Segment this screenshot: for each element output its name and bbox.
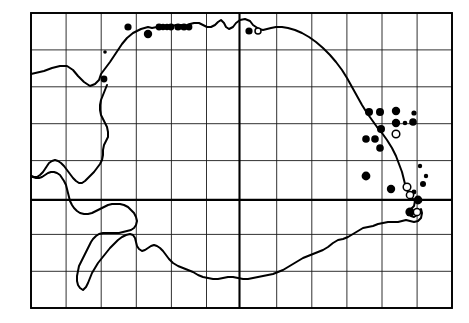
open-circle-record <box>406 191 413 198</box>
filled-circle-record <box>409 118 417 126</box>
filled-circle-record <box>387 185 395 193</box>
filled-circle-record <box>362 172 371 181</box>
open-circle-record <box>255 28 261 34</box>
filled-circle-record <box>376 108 384 116</box>
filled-circle-record <box>371 135 379 143</box>
coastline-inland-boundary <box>31 85 108 183</box>
filled-circle-record <box>411 110 416 115</box>
open-circle-record <box>403 183 411 191</box>
graticule-minor-lines <box>31 13 452 308</box>
coastline-outline <box>31 19 422 290</box>
map-canvas <box>0 0 469 323</box>
filled-circle-record <box>362 135 370 143</box>
filled-circle-record <box>392 119 400 127</box>
filled-circle-record <box>186 24 193 31</box>
filled-circle-record <box>144 30 152 38</box>
filled-circle-record <box>245 27 252 34</box>
filled-circle-record <box>103 50 107 54</box>
filled-circle-record <box>101 76 108 83</box>
filled-circle-record <box>168 24 175 31</box>
filled-circle-record <box>124 23 131 30</box>
filled-circle-record <box>418 164 422 168</box>
filled-circle-record <box>403 121 408 126</box>
filled-circle-record <box>376 144 384 152</box>
filled-circle-record <box>414 196 423 205</box>
filled-record-points <box>101 23 429 216</box>
filled-circle-record <box>377 125 385 133</box>
open-circle-record <box>413 208 420 215</box>
open-circle-record <box>392 130 400 138</box>
filled-circle-record <box>365 108 373 116</box>
filled-circle-record <box>424 174 428 178</box>
distribution-map-figure <box>0 0 469 323</box>
filled-circle-record <box>420 181 426 187</box>
filled-circle-record <box>392 107 400 115</box>
